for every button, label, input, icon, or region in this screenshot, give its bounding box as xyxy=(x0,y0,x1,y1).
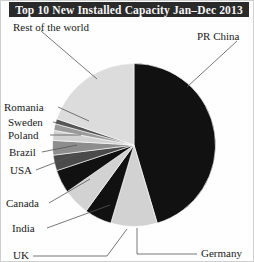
pie-label-india: India xyxy=(12,223,35,234)
chart-frame: Top 10 New Installed Capacity Jan–Dec 20… xyxy=(0,0,254,262)
leader-line-germany xyxy=(137,228,197,254)
pie-label-poland: Poland xyxy=(8,130,39,141)
leader-line-uk xyxy=(33,229,127,256)
pie-label-usa: USA xyxy=(10,165,32,176)
leader-line-pr-china xyxy=(187,41,237,87)
pie-label-canada: Canada xyxy=(6,198,39,209)
leader-line-rest-of-the-world xyxy=(41,31,97,79)
pie-label-sweden: Sweden xyxy=(8,117,43,128)
pie-label-pr-china: PR China xyxy=(197,31,239,42)
pie-label-germany: Germany xyxy=(201,248,242,259)
pie-label-romania: Romania xyxy=(4,102,44,113)
pie-label-rest-of-the-world: Rest of the world xyxy=(13,22,89,33)
pie-label-uk: UK xyxy=(13,250,29,261)
pie-label-brazil: Brazil xyxy=(9,147,36,158)
